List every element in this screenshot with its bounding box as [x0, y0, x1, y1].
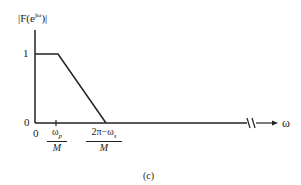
x-tick-ws-num: 2π−ωs — [86, 127, 122, 142]
x-tick-wp-num: ωp — [47, 127, 67, 142]
x-tick-zero: 0 — [33, 128, 39, 139]
y-label-prefix: |F(e — [18, 12, 35, 24]
magnitude-response-curve — [35, 54, 106, 123]
wp-omega: ω — [52, 126, 59, 137]
y-tick-one: 1 — [23, 48, 29, 59]
ws-sub: s — [114, 132, 117, 140]
x-axis-label: ω — [282, 117, 290, 129]
wp-sub: p — [59, 132, 63, 140]
x-axis-arrow-icon — [272, 121, 278, 126]
x-tick-ws-den: M — [86, 142, 122, 154]
plot-canvas — [0, 0, 301, 185]
x-tick-wp-den: M — [47, 142, 67, 154]
figure-caption: (c) — [143, 171, 154, 181]
axis-break-icon — [247, 118, 255, 128]
y-label-suffix: )| — [41, 12, 47, 24]
ws-expr: 2π−ω — [91, 126, 113, 137]
y-axis-label: |F(ejω)| — [18, 12, 47, 24]
x-tick-wp: ωp M — [47, 127, 67, 154]
x-tick-ws: 2π−ωs M — [86, 127, 122, 154]
y-tick-zero: 0 — [24, 117, 30, 128]
